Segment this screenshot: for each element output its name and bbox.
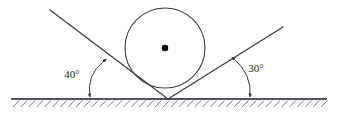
hatch-line — [139, 101, 145, 107]
hatch-line — [147, 101, 153, 107]
hatch-line — [218, 101, 224, 107]
circle-center-dot — [162, 45, 168, 51]
hatch-line — [258, 101, 264, 107]
hatch-line — [305, 101, 311, 107]
hatch-line — [68, 101, 74, 107]
hatch-line — [100, 101, 106, 107]
hatch-line — [163, 101, 169, 107]
hatch-line — [203, 101, 209, 107]
hatch-line — [60, 101, 66, 107]
hatch-line — [211, 101, 217, 107]
geometry-figure: 40° 30° — [0, 0, 337, 116]
hatch-line — [179, 101, 185, 107]
geometry-diagram-container: 40° 30° — [0, 0, 337, 116]
hatch-line — [29, 101, 35, 107]
hatch-line — [76, 101, 82, 107]
right-angle-label: 30° — [248, 62, 263, 74]
ground-hatching — [13, 101, 327, 107]
hatch-line — [155, 101, 161, 107]
left-angle-arc — [89, 61, 104, 97]
hatch-line — [266, 101, 272, 107]
hatch-line — [274, 101, 280, 107]
hatch-line — [45, 101, 51, 107]
hatch-line — [171, 101, 177, 107]
left-angle-label: 40° — [64, 68, 79, 80]
hatch-line — [297, 101, 303, 107]
right-inclined-ray — [168, 27, 283, 99]
hatch-line — [282, 101, 288, 107]
hatch-line — [195, 101, 201, 107]
hatch-line — [53, 101, 59, 107]
hatch-line — [250, 101, 256, 107]
hatch-line — [13, 101, 19, 107]
hatch-line — [37, 101, 43, 107]
hatch-line — [234, 101, 240, 107]
hatch-line — [290, 101, 296, 107]
hatch-line — [242, 101, 248, 107]
hatch-line — [124, 101, 130, 107]
hatch-line — [313, 101, 319, 107]
hatch-line — [116, 101, 122, 107]
hatch-line — [108, 101, 114, 107]
hatch-line — [226, 101, 232, 107]
hatch-line — [132, 101, 138, 107]
hatch-line — [21, 101, 27, 107]
hatch-line — [321, 101, 327, 107]
hatch-line — [187, 101, 193, 107]
hatch-line — [92, 101, 98, 107]
hatch-line — [84, 101, 90, 107]
